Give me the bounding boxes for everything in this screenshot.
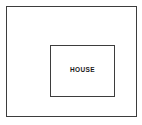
- diagram-canvas: HOUSE: [0, 0, 142, 125]
- outer-boundary-rectangle: HOUSE: [6, 6, 137, 117]
- house-label: HOUSE: [70, 67, 95, 74]
- house-rectangle: HOUSE: [50, 45, 115, 97]
